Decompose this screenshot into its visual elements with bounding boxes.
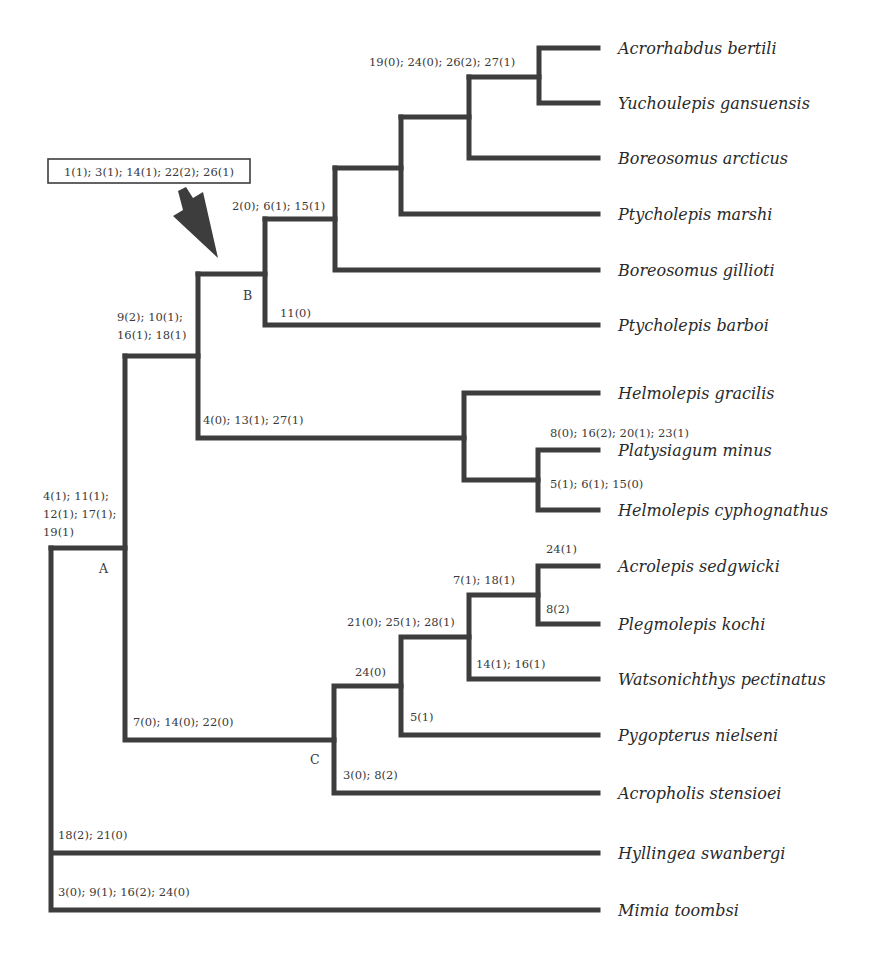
char-label: 9(2); 10(1); bbox=[117, 310, 183, 324]
branch-acrorhabdus-yuchoulepis bbox=[539, 48, 598, 103]
char-label: 4(1); 11(1); bbox=[43, 489, 109, 503]
taxon-label: Boreosomus arcticus bbox=[617, 149, 788, 168]
taxon-label: Acrolepis sedgwicki bbox=[616, 557, 780, 576]
char-label: 7(1); 18(1) bbox=[453, 573, 515, 587]
char-label: 24(0) bbox=[355, 665, 386, 679]
taxon-label: Ptycholepis barboi bbox=[617, 316, 769, 335]
arrow-icon bbox=[173, 187, 218, 258]
char-label: 16(1); 18(1) bbox=[117, 328, 186, 342]
taxon-label: Yuchoulepis gansuensis bbox=[618, 94, 810, 113]
char-label: 5(1); 6(1); 15(0) bbox=[550, 477, 643, 491]
taxon-label: Ptycholepis marshi bbox=[617, 205, 772, 224]
char-label: 8(0); 16(2); 20(1); 23(1) bbox=[550, 426, 689, 440]
char-label: 11(0) bbox=[280, 306, 311, 320]
node-labels: A B C bbox=[98, 288, 320, 767]
cladogram: 1(1); 3(1); 14(1); 22(2); 26(1) Acrorhab… bbox=[0, 0, 883, 963]
taxon-label: Mimia toombsi bbox=[617, 901, 739, 920]
branch-boreosomus-arcticus bbox=[469, 77, 598, 158]
callout: 1(1); 3(1); 14(1); 22(2); 26(1) bbox=[48, 159, 250, 258]
char-label: 18(2); 21(0) bbox=[58, 828, 127, 842]
char-label: 14(1); 16(1) bbox=[476, 657, 545, 671]
char-label: 5(1) bbox=[410, 710, 434, 724]
char-label: 3(0); 8(2) bbox=[343, 768, 398, 782]
taxon-label: Boreosomus gillioti bbox=[617, 261, 775, 280]
char-label: 19(1) bbox=[43, 525, 74, 539]
node-label-A: A bbox=[98, 561, 109, 576]
branch-boreosomus-gillioti bbox=[335, 168, 598, 270]
char-label: 12(1); 17(1); bbox=[43, 507, 116, 521]
char-label: 19(0); 24(0); 26(2); 27(1) bbox=[369, 55, 515, 69]
taxon-label: Platysiagum minus bbox=[617, 441, 772, 460]
taxon-label: Helmolepis cyphognathus bbox=[617, 501, 828, 520]
char-label: 7(0); 14(0); 22(0) bbox=[133, 715, 234, 729]
char-label: 2(0); 6(1); 15(1) bbox=[232, 199, 325, 213]
node-label-B: B bbox=[243, 288, 252, 303]
taxon-label: Hyllingea swanbergi bbox=[617, 844, 785, 863]
taxon-labels: Acrorhabdus bertili Yuchoulepis gansuens… bbox=[616, 39, 828, 920]
char-label: 4(0); 13(1); 27(1) bbox=[203, 413, 304, 427]
branch-root-outgroups bbox=[51, 548, 598, 910]
char-label: 3(0); 9(1); 16(2); 24(0) bbox=[58, 885, 190, 899]
branch-ptycholepis-marshi bbox=[401, 117, 598, 214]
node-label-C: C bbox=[310, 752, 320, 767]
taxon-label: Helmolepis gracilis bbox=[617, 384, 775, 403]
taxon-label: Acrorhabdus bertili bbox=[616, 39, 777, 58]
char-label: 21(0); 25(1); 28(1) bbox=[347, 615, 455, 629]
callout-text: 1(1); 3(1); 14(1); 22(2); 26(1) bbox=[64, 165, 234, 179]
char-label: 8(2) bbox=[546, 602, 570, 616]
taxon-label: Watsonichthys pectinatus bbox=[618, 670, 826, 689]
taxon-label: Plegmolepis kochi bbox=[617, 615, 765, 634]
char-label: 24(1) bbox=[546, 542, 577, 556]
taxon-label: Pygopterus nielseni bbox=[617, 726, 778, 745]
taxon-label: Acropholis stensioei bbox=[616, 784, 781, 803]
